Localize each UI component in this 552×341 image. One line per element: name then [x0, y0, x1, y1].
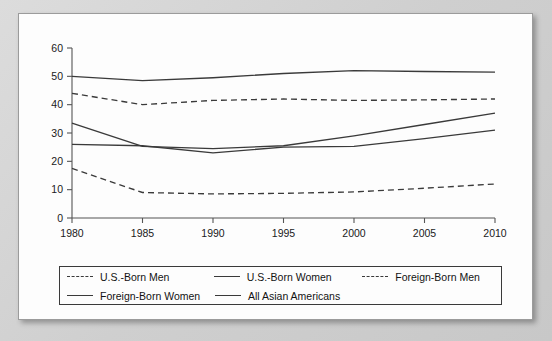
chart-panel: 0102030405060198019851990199520002005201…	[18, 13, 533, 320]
y-tick-label: 60	[51, 42, 63, 54]
x-tick-label: 2000	[342, 227, 366, 239]
series-line-foreign-born-men	[72, 168, 495, 194]
series-line-u-s-born-men	[72, 93, 495, 104]
line-swatch-dashed-icon	[362, 272, 388, 282]
x-tick-label: 1995	[272, 227, 296, 239]
y-tick-label: 20	[51, 155, 63, 167]
series-line-foreign-born-women	[72, 130, 495, 153]
y-tick-label: 10	[51, 183, 63, 195]
legend-label: Foreign-Born Women	[100, 290, 200, 302]
line-swatch-solid-icon	[67, 291, 93, 301]
x-tick-label: 1980	[60, 227, 84, 239]
legend-label: Foreign-Born Men	[395, 271, 480, 283]
legend-item-us-born-men: U.S.-Born Men	[67, 271, 214, 283]
x-tick-label: 1985	[131, 227, 155, 239]
legend-row: Foreign-Born Women All Asian Americans	[60, 286, 501, 305]
x-tick-label: 2010	[483, 227, 507, 239]
line-swatch-solid-icon	[214, 272, 240, 282]
y-tick-label: 30	[51, 127, 63, 139]
line-swatch-dashed-icon	[67, 272, 93, 282]
x-tick-label: 1990	[201, 227, 225, 239]
line-swatch-solid-icon	[215, 291, 241, 301]
legend-item-us-born-women: U.S.-Born Women	[214, 271, 363, 283]
chart-legend: U.S.-Born Men U.S.-Born Women Foreign-Bo…	[59, 266, 502, 305]
legend-label: U.S.-Born Men	[100, 271, 169, 283]
legend-label: U.S.-Born Women	[247, 271, 332, 283]
y-tick-label: 50	[51, 70, 63, 82]
series-line-all-asian-americans	[72, 71, 495, 81]
y-tick-label: 40	[51, 98, 63, 110]
x-tick-label: 2005	[413, 227, 437, 239]
y-tick-label: 0	[57, 212, 63, 224]
series-line-u-s-born-women	[72, 113, 495, 148]
legend-label: All Asian Americans	[248, 290, 340, 302]
legend-item-foreign-born-men: Foreign-Born Men	[362, 271, 501, 283]
legend-item-all-asian-americans: All Asian Americans	[215, 290, 365, 302]
legend-row: U.S.-Born Men U.S.-Born Women Foreign-Bo…	[60, 267, 501, 286]
legend-item-foreign-born-women: Foreign-Born Women	[67, 290, 215, 302]
